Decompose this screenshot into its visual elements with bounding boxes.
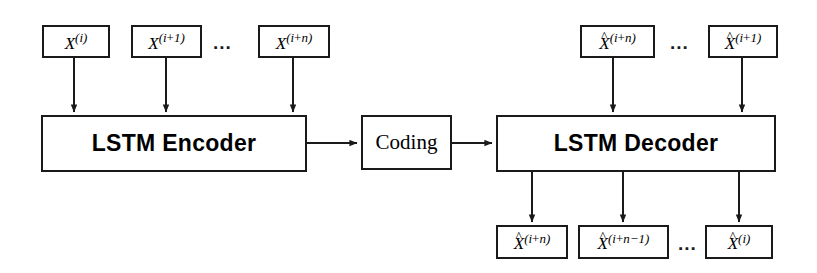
- output-box-2: ^X(i+n−1): [578, 225, 669, 259]
- symbol-xhat-out-i-plus-n: ^X(i+n): [514, 232, 551, 253]
- input-box-1: X(i): [42, 25, 110, 58]
- symbol-x-i-plus-1: X(i+1): [148, 31, 185, 52]
- output-ellipsis: ...: [678, 234, 697, 253]
- input-box-2: X(i+1): [131, 25, 202, 58]
- symbol-xhat-out-i: ^X(i): [728, 232, 751, 253]
- decoder-input-ellipsis: ...: [670, 33, 689, 52]
- output-box-1: ^X(i+n): [496, 225, 568, 259]
- input-ellipsis: ...: [213, 33, 232, 52]
- decoder-input-box-2: ^X(i+1): [708, 25, 778, 58]
- output-box-3: ^X(i): [705, 225, 773, 259]
- lstm-autoencoder-diagram: X(i) X(i+1) ... X(i+n) ^X(i+n) ... ^X(i+…: [0, 0, 817, 273]
- symbol-x-i: X(i): [65, 31, 88, 52]
- symbol-xhat-i-plus-1: ^X(i+1): [725, 31, 762, 52]
- decoder-input-box-1: ^X(i+n): [580, 25, 655, 58]
- coding-block: Coding: [361, 115, 452, 170]
- input-box-3: X(i+n): [258, 25, 330, 58]
- symbol-xhat-out-i-plus-n-minus-1: ^X(i+n−1): [598, 232, 650, 253]
- lstm-encoder-block: LSTM Encoder: [41, 115, 307, 172]
- symbol-x-i-plus-n: X(i+n): [276, 31, 313, 52]
- symbol-xhat-i-plus-n: ^X(i+n): [599, 31, 636, 52]
- lstm-decoder-block: LSTM Decoder: [496, 115, 776, 172]
